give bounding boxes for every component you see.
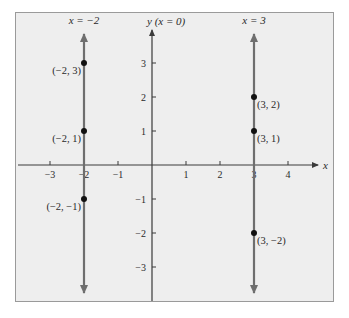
y-tick-label: 2 <box>141 92 146 103</box>
x-tick-label: 4 <box>286 169 291 180</box>
y-tick-label: −1 <box>135 194 146 205</box>
point-label: (3, 2) <box>257 99 280 111</box>
x-tick-label: −1 <box>113 169 124 180</box>
point-label: (−2, 1) <box>52 133 81 145</box>
point-label: (3, 1) <box>257 133 280 145</box>
point-label: (−2, 3) <box>52 65 81 77</box>
y-tick-label: 3 <box>141 58 146 69</box>
graph-figure: x y (x = 0) −3−2−11234 321−1−2−3 x = −2x… <box>0 0 349 318</box>
point-label: (−2, −1) <box>46 201 81 213</box>
y-tick-label: −2 <box>135 228 146 239</box>
y-tick-label: −3 <box>135 262 146 273</box>
graph-panel <box>16 13 334 302</box>
point-label: (3, −2) <box>257 235 286 247</box>
x-tick-label: 2 <box>218 169 223 180</box>
x-tick-label: −3 <box>45 169 56 180</box>
y-axis-label: y (x = 0) <box>146 15 186 28</box>
y-tick-label: 1 <box>141 126 146 137</box>
vertical-line-label: x = 3 <box>241 14 266 26</box>
vertical-line-label: x = −2 <box>68 14 100 26</box>
x-axis-label: x <box>322 159 328 171</box>
x-tick-label: 1 <box>184 169 189 180</box>
